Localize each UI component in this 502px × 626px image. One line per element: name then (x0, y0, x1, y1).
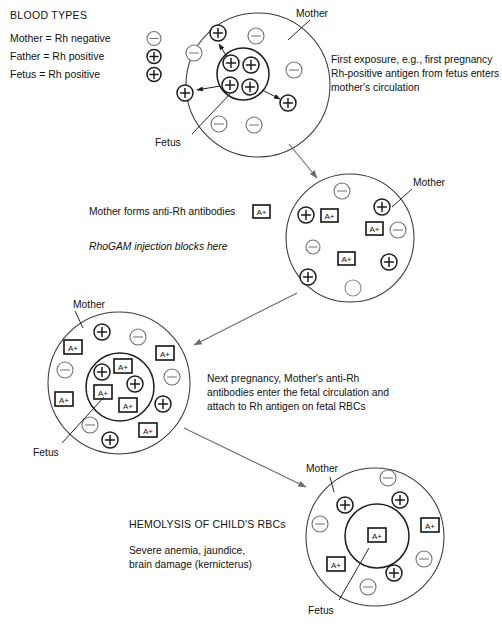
stage-3-caption-line-1: antibodies enter the fetal circulation a… (207, 387, 389, 398)
antibody-marker: A+ (368, 528, 386, 542)
stage-4-caption-line-1: brain damage (kernicterus) (129, 559, 252, 570)
antibody-marker: A+ (94, 385, 112, 399)
rbc-minus (57, 362, 73, 378)
svg-text:A+: A+ (369, 225, 379, 234)
antibody-marker: A+ (64, 340, 82, 354)
rbc-minus (248, 28, 264, 44)
rbc-minus (416, 551, 432, 567)
rbc-plus (127, 376, 143, 392)
stage-2-mother-leader (392, 189, 412, 207)
svg-text:A+: A+ (59, 396, 69, 405)
antibody-marker: A+ (156, 346, 174, 360)
stage-2-caption-line-0: Mother forms anti-Rh antibodies (89, 206, 236, 217)
rbc-plus (94, 364, 110, 380)
rbc-minus (390, 222, 406, 238)
antibody-marker: A+ (366, 222, 383, 235)
rbc-plus (155, 396, 171, 412)
svg-text:A+: A+ (160, 350, 170, 359)
stage-1-migration-arrows (197, 44, 280, 99)
stage-1-mother-cells (177, 25, 302, 133)
svg-text:A+: A+ (68, 344, 78, 353)
stage-3-fetus-label: Fetus (33, 447, 59, 458)
stage-3-mother-label: Mother (73, 299, 106, 310)
legend: Mother = Rh negative Father = Rh positiv… (10, 32, 161, 82)
legend-icon-plus-fetus (147, 68, 161, 82)
rbc-plus (392, 492, 408, 508)
antibody-marker: A+ (338, 252, 355, 265)
rbc-plus (300, 269, 316, 285)
rbc-minus (380, 470, 396, 486)
stage-4-caption-line-0: Severe anemia, jaundice, (129, 545, 245, 556)
svg-text:A+: A+ (256, 208, 266, 217)
page-title: BLOOD TYPES (10, 9, 87, 21)
svg-text:A+: A+ (118, 363, 128, 372)
flow-arrow-1-to-2 (289, 144, 317, 178)
rbc-plus (337, 497, 353, 513)
stage-3-mother-leader (75, 311, 83, 328)
svg-text:A+: A+ (331, 561, 341, 570)
antibody-marker: A+ (139, 423, 157, 437)
legend-item-label-0: Mother = Rh negative (10, 32, 111, 44)
flow-arrow-2-to-3 (194, 293, 297, 345)
rbc-plus (177, 85, 193, 101)
rbc-minus (164, 369, 180, 385)
rbc-plus (386, 565, 402, 581)
rbc-plus (102, 432, 118, 448)
stage-1-caption-line-1: Rh-positive antigen from fetus enters (331, 68, 499, 79)
rbc-plus (374, 199, 390, 215)
antibody-marker: A+ (119, 398, 137, 412)
rbc-minus (186, 45, 202, 61)
rbc-plus (280, 95, 296, 111)
stage-2-caption-badge: A+ (253, 205, 270, 218)
legend-item-label-1: Father = Rh positive (10, 50, 104, 62)
rbc-plain (345, 280, 361, 296)
rh-incompatibility-diagram: BLOOD TYPES Mother = Rh negative Father … (0, 0, 502, 626)
stage-4-fetal-cells: A+ (368, 528, 386, 542)
stage-1-group: Mother Fetus First exposure, e.g., first… (155, 8, 499, 157)
stage-4-group: A+ A+ A+ Mother Fetus HEMOLYSIS OF CHILD… (129, 463, 444, 616)
legend-icon-minus (147, 32, 161, 46)
stage-4-heading: HEMOLYSIS OF CHILD'S RBCs (129, 518, 286, 530)
svg-text:A+: A+ (324, 212, 334, 221)
rbc-minus (130, 329, 146, 345)
stage-1-caption-line-2: mother's circulation (331, 82, 420, 93)
stage-2-mother-label: Mother (413, 177, 446, 188)
flow-arrow-3-to-4 (184, 428, 306, 487)
rbc-plus (210, 25, 226, 41)
rbc-minus (82, 417, 98, 433)
legend-item-label-2: Fetus = Rh positive (10, 68, 100, 80)
svg-text:A+: A+ (123, 402, 133, 411)
diagram-canvas: BLOOD TYPES Mother = Rh negative Father … (0, 0, 502, 626)
antibody-marker: A+ (55, 392, 73, 406)
rbc-minus (312, 516, 328, 532)
stage-2-caption-italic: RhoGAM injection blocks here (89, 241, 228, 252)
stage-3-fetal-cells: A+ A+ A+ (94, 359, 143, 412)
antibody-marker: A+ (114, 359, 132, 373)
rbc-minus (286, 62, 302, 78)
antibody-marker: A+ (327, 557, 345, 571)
svg-text:A+: A+ (372, 532, 382, 541)
rbc-plus (243, 57, 259, 73)
stage-1-mother-label: Mother (296, 8, 329, 19)
rbc-plus (222, 77, 238, 93)
legend-icon-plus-father (147, 50, 161, 64)
antibody-marker: A+ (421, 518, 439, 532)
rbc-plus (94, 324, 110, 340)
rbc-minus (360, 579, 376, 595)
stage-4-mother-label: Mother (306, 463, 339, 474)
antibody-marker: A+ (321, 209, 338, 222)
stage-1-caption-line-0: First exposure, e.g., first pregnancy (331, 54, 493, 65)
stage-3-group: A+ A+ A+ A+ (33, 299, 389, 458)
stage-2-cells: A+ A+ A+ (298, 183, 406, 296)
rbc-minus (211, 116, 227, 132)
stage-3-caption-line-2: attach to Rh antigen on fetal RBCs (207, 401, 366, 412)
stage-3-caption-line-0: Next pregnancy, Mother's anti-Rh (207, 373, 360, 384)
stage-2-group: A+ A+ A+ Mother Mother forms anti-Rh ant… (89, 174, 446, 302)
rbc-minus (334, 183, 350, 199)
svg-text:A+: A+ (341, 255, 351, 264)
svg-text:A+: A+ (425, 522, 435, 531)
stage-1-fetal-cells (222, 55, 259, 95)
svg-text:A+: A+ (98, 389, 108, 398)
stage-3-mother-cells: A+ A+ A+ A+ (55, 324, 180, 448)
rbc-plus (381, 254, 397, 270)
